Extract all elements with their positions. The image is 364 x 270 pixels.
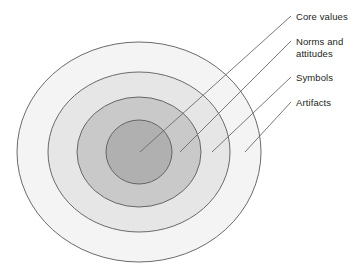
onion-diagram: Core values Norms and attitudes Symbols … [0, 0, 364, 270]
label-core-values: Core values [296, 11, 348, 23]
label-artifacts: Artifacts [296, 97, 331, 109]
ellipse-core-values [106, 120, 172, 184]
label-norms-and-attitudes: Norms and attitudes [296, 36, 343, 59]
label-symbols: Symbols [296, 72, 333, 84]
